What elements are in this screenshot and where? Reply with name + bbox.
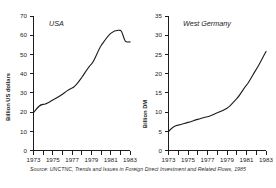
figure-two-panel-line-chart: 0 10 20 30 40 50 60 70: [0, 0, 276, 188]
usa-ytick-40: 40: [20, 70, 27, 77]
source-note: Source: UNCTNC, Trends and Issues in For…: [0, 166, 276, 172]
wg-y-axis-title: Billion DM: [142, 100, 148, 129]
wg-xtick-1983: 1983: [259, 156, 273, 163]
wg-y-ticks: [165, 16, 169, 151]
west-germany-plot-svg: 0 5 10 15 20 25 30 35: [138, 2, 276, 164]
wg-series-line: [169, 51, 267, 131]
wg-axes: [169, 16, 267, 151]
usa-xtick-1979: 1979: [85, 156, 99, 163]
wg-ytick-10: 10: [155, 108, 162, 115]
usa-xtick-1973: 1973: [27, 156, 41, 163]
usa-y-ticks: [30, 16, 34, 151]
wg-xtick-1977: 1977: [201, 156, 215, 163]
wg-xtick-1979: 1979: [220, 156, 234, 163]
usa-ytick-70: 70: [20, 12, 27, 19]
usa-ytick-30: 30: [20, 89, 27, 96]
usa-axes: [34, 16, 131, 151]
usa-ytick-10: 10: [20, 128, 27, 135]
usa-ytick-50: 50: [20, 51, 27, 58]
wg-panel-title: West Germany: [183, 19, 231, 28]
wg-ytick-25: 25: [155, 51, 162, 58]
wg-x-ticks: [169, 151, 267, 155]
chart-panel-usa: 0 10 20 30 40 50 60 70: [0, 2, 138, 164]
wg-ytick-5: 5: [159, 128, 163, 135]
usa-plot-svg: 0 10 20 30 40 50 60 70: [0, 2, 138, 164]
usa-xtick-1983: 1983: [123, 156, 137, 163]
usa-x-ticks: [34, 151, 131, 155]
wg-ytick-35: 35: [155, 12, 162, 19]
usa-xtick-1977: 1977: [65, 156, 79, 163]
usa-panel-title: USA: [49, 19, 64, 28]
chart-panels: 0 10 20 30 40 50 60 70: [0, 2, 276, 164]
usa-ytick-0: 0: [24, 147, 28, 154]
wg-xtick-1981: 1981: [240, 156, 254, 163]
wg-xtick-1973: 1973: [162, 156, 176, 163]
usa-xtick-1975: 1975: [46, 156, 60, 163]
wg-ytick-20: 20: [155, 70, 162, 77]
chart-panel-west-germany: 0 5 10 15 20 25 30 35: [138, 2, 276, 164]
wg-ytick-30: 30: [155, 31, 162, 38]
usa-y-axis-title: Billion US dollars: [5, 73, 11, 121]
wg-xtick-1975: 1975: [181, 156, 195, 163]
usa-ytick-20: 20: [20, 108, 27, 115]
wg-ytick-0: 0: [159, 147, 163, 154]
wg-ytick-15: 15: [155, 89, 162, 96]
usa-xtick-1981: 1981: [104, 156, 118, 163]
usa-series-line: [34, 30, 131, 113]
usa-ytick-60: 60: [20, 31, 27, 38]
